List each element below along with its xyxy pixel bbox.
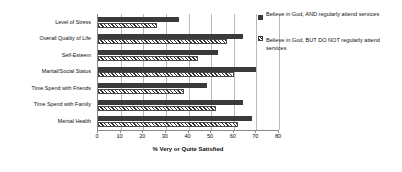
bar-group	[98, 80, 279, 97]
bar-attend	[98, 100, 243, 105]
legend-item-not-attend[interactable]: Believe in God, BUT DO NOT regularly att…	[258, 36, 398, 52]
x-tick-label: 30	[162, 134, 168, 140]
bar-series-container	[98, 14, 279, 130]
bar-attend	[98, 116, 252, 121]
bar-attend	[98, 17, 179, 22]
bar-group	[98, 31, 279, 48]
bar-group	[98, 113, 279, 130]
category-label: Time Spend with Family	[0, 97, 94, 114]
bar-attend	[98, 67, 256, 72]
bar-not-attend	[98, 122, 238, 127]
x-tick-label: 50	[207, 134, 213, 140]
category-label: Marital/Social Status	[0, 64, 94, 81]
bar-group	[98, 97, 279, 114]
x-tick-label: 10	[117, 134, 123, 140]
bar-attend	[98, 50, 218, 55]
bar-group	[98, 47, 279, 64]
bar-not-attend	[98, 23, 157, 28]
category-axis: Level of StressOverall Quality of LifeSe…	[0, 14, 94, 130]
x-tick-label: 70	[252, 134, 258, 140]
legend-item-attend[interactable]: Believe in God, AND regularly attend ser…	[258, 10, 398, 20]
category-label: Level of Stress	[0, 14, 94, 31]
x-tick-label: 20	[139, 134, 145, 140]
category-label: Overall Quality of Life	[0, 31, 94, 48]
bar-not-attend	[98, 106, 216, 111]
x-tick-label: 60	[230, 134, 236, 140]
bar-not-attend	[98, 89, 184, 94]
bar-group	[98, 14, 279, 31]
legend-label-not-attend: Believe in God, BUT DO NOT regularly att…	[266, 36, 386, 52]
bar-group	[98, 64, 279, 81]
bar-not-attend	[98, 56, 198, 61]
plot-area	[97, 14, 279, 130]
bar-attend	[98, 83, 207, 88]
x-tick-label: 40	[184, 134, 190, 140]
category-label: Time Spend with Friends	[0, 80, 94, 97]
x-tick-label: 0	[95, 134, 98, 140]
bar-attend	[98, 34, 243, 39]
x-tick-label: 80	[275, 134, 281, 140]
chart-legend: Believe in God, AND regularly attend ser…	[258, 10, 398, 68]
legend-label-attend: Believe in God, AND regularly attend ser…	[266, 10, 379, 18]
category-label: Self-Esteem	[0, 47, 94, 64]
bar-not-attend	[98, 39, 227, 44]
x-axis-title: % Very or Quite Satisfied	[97, 146, 279, 152]
bar-not-attend	[98, 72, 234, 77]
bar-chart: Level of StressOverall Quality of LifeSe…	[0, 0, 402, 172]
category-label: Mental Health	[0, 113, 94, 130]
